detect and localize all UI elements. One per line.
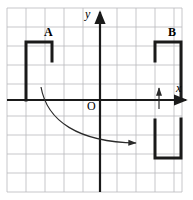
y-axis-label: y [85,8,90,20]
origin-label: O [87,100,96,112]
shape-label-A: A [44,26,53,38]
coordinate-grid-figure: A B y x O [0,0,193,200]
x-axis-label: x [176,82,181,94]
shape-label-B: B [168,26,176,38]
figure-canvas [0,0,193,200]
